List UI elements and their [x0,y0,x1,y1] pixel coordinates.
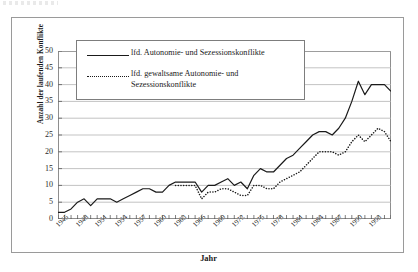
y-tick-label: 35 [27,97,53,105]
legend-dotted-line-icon [85,72,131,82]
series-line-1 [176,128,391,199]
x-axis-title: Jahr [12,254,405,263]
legend-item-1-line1: lfd. gewaltsame Autonomie- und [131,69,238,78]
y-tick-label: 50 [27,47,53,55]
legend-item-1-line2: Sezessionskonflikte [131,80,196,89]
scan-artifact [3,1,58,5]
legend-solid-line-icon [85,51,131,61]
y-tick-label: 25 [27,131,53,139]
legend-item-1: lfd. gewaltsame Autonomie- und Sezession… [85,69,238,90]
chart-page: Jahr Anzahl der laufenden Konflikte 0510… [0,0,418,272]
y-tick-label: 40 [27,81,53,89]
y-tick-label: 10 [27,181,53,189]
legend-item-1-label: lfd. gewaltsame Autonomie- und Sezession… [131,69,238,90]
chart-outer-frame: Jahr Anzahl der laufenden Konflikte 0510… [11,17,404,253]
series-line-0 [58,81,391,212]
y-tick-label: 0 [27,215,53,223]
chart-legend: lfd. Autonomie- und Sezessionskonflikte … [76,40,305,100]
y-tick-label: 30 [27,114,53,122]
y-tick-label: 45 [27,64,53,72]
y-tick-label: 15 [27,165,53,173]
legend-item-0-label: lfd. Autonomie- und Sezessionskonflikte [131,48,265,59]
y-tick-label: 20 [27,148,53,156]
y-tick-label: 5 [27,198,53,206]
legend-item-0: lfd. Autonomie- und Sezessionskonflikte [85,48,265,61]
